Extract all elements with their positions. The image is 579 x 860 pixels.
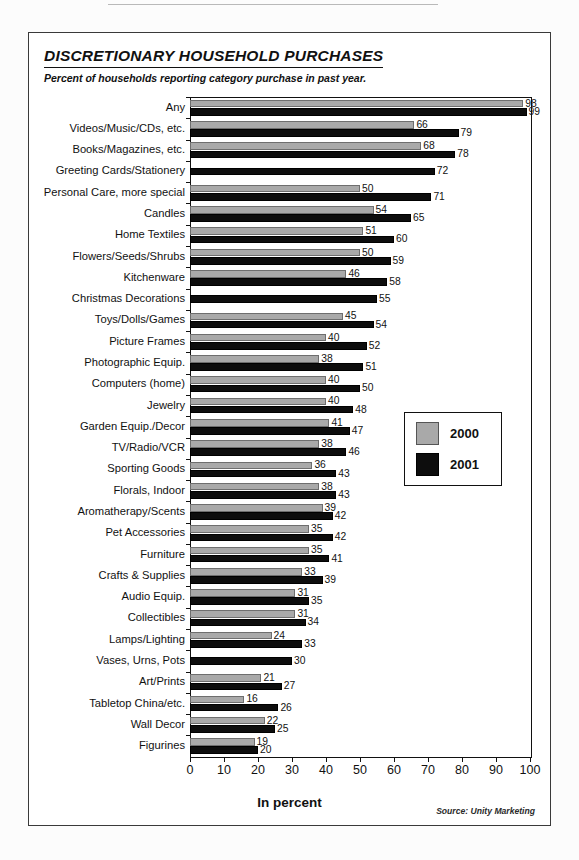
bar-2000: 50	[190, 249, 360, 257]
category-label: TV/Radio/VCR	[112, 443, 185, 454]
x-tick-label: 60	[387, 763, 401, 777]
bar-row: Photographic Equip.3851	[190, 352, 530, 373]
bar-value-label: 65	[413, 213, 424, 223]
category-label: Books/Magazines, etc.	[72, 145, 185, 156]
category-label: Toys/Dolls/Games	[95, 315, 185, 326]
category-tick	[186, 629, 190, 630]
bar-2000: 40	[190, 334, 326, 342]
bar-row: Home Textiles5160	[190, 225, 530, 246]
bar-2000: 50	[190, 185, 360, 193]
category-tick	[186, 118, 190, 119]
bar-2001: 30	[190, 657, 292, 665]
chart-title: DISCRETIONARY HOUSEHOLD PURCHASES	[44, 47, 383, 68]
category-tick	[186, 459, 190, 460]
category-label: Jewelry	[147, 400, 185, 411]
x-tick-label: 0	[187, 763, 194, 777]
bar-value-label: 33	[304, 639, 315, 649]
x-tick-label: 80	[455, 763, 469, 777]
x-tick-mark	[292, 757, 293, 762]
category-label: Crafts & Supplies	[99, 570, 185, 581]
bar-2001: 46	[190, 448, 346, 456]
x-tick-label: 70	[421, 763, 435, 777]
bar-row: Candles5465	[190, 203, 530, 224]
x-tick-label: 50	[353, 763, 367, 777]
x-tick-mark	[190, 757, 191, 762]
category-label: Home Textiles	[115, 230, 185, 241]
bar-row: Greeting Cards/Stationery72	[190, 161, 530, 182]
x-tick-label: 10	[217, 763, 231, 777]
bar-value-label: 43	[338, 490, 349, 500]
category-tick	[186, 140, 190, 141]
category-tick	[186, 672, 190, 673]
x-tick-mark	[462, 757, 463, 762]
bar-2001: 78	[190, 151, 455, 159]
bar-2000: 98	[190, 100, 523, 108]
bar-row: Picture Frames4052	[190, 331, 530, 352]
category-label: Picture Frames	[109, 336, 185, 347]
bar-value-label: 26	[280, 702, 291, 712]
category-label: Florals, Indoor	[113, 485, 185, 496]
bar-row: Lamps/Lighting2433	[190, 629, 530, 650]
bar-2000: 21	[190, 674, 261, 682]
bar-value-label: 46	[348, 447, 359, 457]
x-tick-mark	[258, 757, 259, 762]
bar-2000: 38	[190, 483, 319, 491]
category-label: Pet Accessories	[105, 528, 185, 539]
bar-2001: 71	[190, 193, 431, 201]
category-label: Greeting Cards/Stationery	[56, 166, 185, 177]
x-tick-label: 20	[251, 763, 265, 777]
bar-2001: 65	[190, 214, 411, 222]
bar-row: Wall Decor2225	[190, 714, 530, 735]
category-tick	[186, 331, 190, 332]
bar-2001: 41	[190, 555, 329, 563]
category-tick	[186, 523, 190, 524]
x-tick-mark	[360, 757, 361, 762]
scan-artifact-line	[108, 4, 438, 5]
bar-value-label: 30	[294, 656, 305, 666]
bar-row: Figurines1920	[190, 735, 530, 756]
bar-2000: 41	[190, 419, 329, 427]
category-tick	[186, 310, 190, 311]
source-note: Source: Unity Marketing	[436, 806, 535, 816]
category-tick	[186, 416, 190, 417]
category-tick	[186, 203, 190, 204]
bar-2000: 36	[190, 462, 312, 470]
bar-value-label: 71	[433, 192, 444, 202]
bar-2000: 24	[190, 632, 272, 640]
bar-2000: 38	[190, 355, 319, 363]
bar-value-label: 41	[331, 553, 342, 563]
bar-2000: 45	[190, 313, 343, 321]
bar-2000: 31	[190, 610, 295, 618]
category-tick	[186, 608, 190, 609]
category-tick	[186, 650, 190, 651]
bar-value-label: 54	[376, 319, 387, 329]
bar-value-label: 27	[284, 681, 295, 691]
bar-2001: 55	[190, 295, 377, 303]
bar-2001: 79	[190, 129, 459, 137]
x-axis-ticks: 0102030405060708090100	[190, 757, 530, 779]
category-label: Furniture	[140, 549, 185, 560]
category-tick	[186, 374, 190, 375]
legend-swatch-2000	[416, 422, 439, 445]
category-label: Computers (home)	[92, 379, 185, 390]
bar-value-label: 50	[362, 383, 373, 393]
category-tick	[186, 246, 190, 247]
bar-2001: 20	[190, 746, 258, 754]
category-tick	[186, 586, 190, 587]
bar-row: Art/Prints2127	[190, 672, 530, 693]
category-label: Personal Care, more special	[44, 187, 185, 198]
bar-row: Kitchenware4658	[190, 267, 530, 288]
category-tick	[186, 693, 190, 694]
bar-2001: 48	[190, 406, 353, 414]
category-label: Aromatherapy/Scents	[77, 506, 185, 517]
category-label: Collectibles	[128, 613, 185, 624]
bar-value-label: 52	[369, 341, 380, 351]
bar-value-label: 72	[437, 166, 448, 176]
bar-2001: 60	[190, 236, 394, 244]
bar-2001: 34	[190, 619, 306, 627]
x-tick-label: 90	[489, 763, 503, 777]
bar-value-label: 35	[311, 596, 322, 606]
category-label: Christmas Decorations	[72, 294, 185, 305]
category-label: Garden Equip./Decor	[80, 421, 185, 432]
bar-row: Collectibles3134	[190, 608, 530, 629]
